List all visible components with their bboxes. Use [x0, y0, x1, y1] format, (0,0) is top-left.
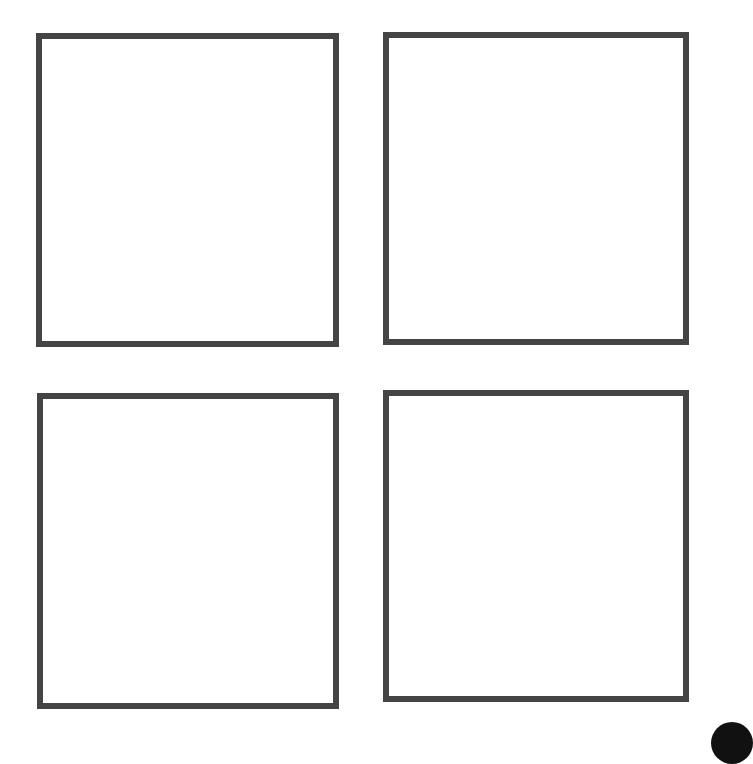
empty-panel-top-left	[36, 33, 339, 347]
empty-panel-bottom-right	[383, 390, 689, 702]
circle-icon[interactable]	[711, 722, 753, 764]
empty-panel-bottom-left	[37, 393, 339, 709]
empty-panel-top-right	[383, 32, 689, 345]
